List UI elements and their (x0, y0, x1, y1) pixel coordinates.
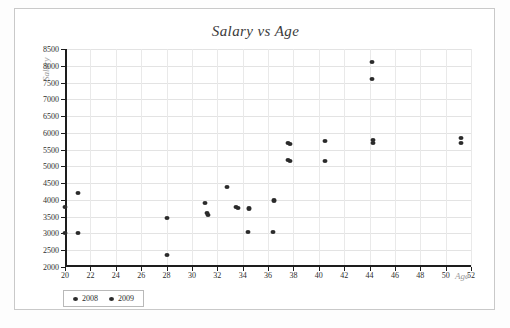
data-point (287, 142, 292, 146)
data-point (164, 216, 169, 220)
gridline-vertical (90, 49, 91, 267)
y-tick-label: 7500 (43, 78, 59, 87)
y-tick-mark (61, 200, 65, 201)
chart-legend: 20082009 (63, 290, 144, 307)
screenshot-root: Salary vs Age Salary Age 200025003000350… (0, 0, 510, 328)
y-tick-mark (61, 133, 65, 134)
chart-container: Salary vs Age Salary Age 200025003000350… (14, 8, 495, 310)
data-point (371, 141, 376, 145)
y-tick-label: 5000 (43, 162, 59, 171)
data-point (75, 231, 80, 235)
gridline-vertical (319, 49, 320, 267)
y-tick-mark (61, 217, 65, 218)
x-tick-label: 38 (289, 271, 297, 280)
legend-marker-icon (109, 297, 114, 301)
gridline-vertical (471, 49, 472, 267)
data-point (323, 159, 328, 163)
data-point (370, 77, 375, 81)
legend-entry-2009[interactable]: 2009 (109, 294, 134, 303)
gridline-vertical (192, 49, 193, 267)
gridline-vertical (395, 49, 396, 267)
data-point (75, 191, 80, 195)
x-tick-label: 34 (239, 271, 247, 280)
y-tick-label: 2000 (43, 263, 59, 272)
gridline-vertical (243, 49, 244, 267)
data-point (458, 141, 463, 145)
data-point (370, 60, 375, 64)
plot-area: 2000250030003500400045005000550060006500… (65, 49, 471, 267)
y-tick-mark (61, 66, 65, 67)
gridline-vertical (370, 49, 371, 267)
y-tick-label: 3000 (43, 229, 59, 238)
y-tick-mark (61, 49, 65, 50)
data-point (458, 136, 463, 140)
chart-title: Salary vs Age (15, 23, 496, 40)
x-tick-label: 48 (416, 271, 424, 280)
data-point (272, 199, 277, 203)
y-tick-mark (61, 116, 65, 117)
legend-marker-icon (73, 297, 78, 301)
gridline-vertical (116, 49, 117, 267)
legend-entry-2008[interactable]: 2008 (73, 294, 98, 303)
x-tick-label: 28 (163, 271, 171, 280)
x-tick-label: 50 (442, 271, 450, 280)
x-tick-label: 26 (137, 271, 145, 280)
x-tick-label: 32 (213, 271, 221, 280)
data-point (206, 213, 211, 217)
data-point (235, 206, 240, 210)
data-point (245, 230, 250, 234)
data-point (271, 230, 276, 234)
x-tick-label: 52 (467, 271, 475, 280)
x-tick-label: 20 (61, 271, 69, 280)
y-tick-label: 3500 (43, 212, 59, 221)
y-tick-mark (61, 250, 65, 251)
data-point (164, 253, 169, 257)
legend-label: 2008 (82, 294, 98, 303)
y-tick-label: 2500 (43, 246, 59, 255)
gridline-vertical (344, 49, 345, 267)
x-tick-label: 30 (188, 271, 196, 280)
data-point (287, 159, 292, 163)
y-tick-mark (61, 183, 65, 184)
y-tick-label: 6500 (43, 112, 59, 121)
data-point (202, 201, 207, 205)
x-tick-label: 42 (340, 271, 348, 280)
legend-label: 2009 (118, 294, 134, 303)
x-tick-label: 36 (264, 271, 272, 280)
data-point (246, 207, 251, 211)
gridline-vertical (167, 49, 168, 267)
x-tick-label: 46 (391, 271, 399, 280)
y-tick-label: 4000 (43, 195, 59, 204)
gridline-vertical (141, 49, 142, 267)
data-point (63, 205, 68, 209)
x-tick-label: 22 (86, 271, 94, 280)
x-tick-label: 40 (315, 271, 323, 280)
gridline-vertical (446, 49, 447, 267)
y-tick-mark (61, 150, 65, 151)
gridline-vertical (293, 49, 294, 267)
y-tick-label: 8000 (43, 61, 59, 70)
y-tick-mark (61, 99, 65, 100)
data-point (225, 185, 230, 189)
data-point (323, 139, 328, 143)
y-tick-mark (61, 166, 65, 167)
y-tick-mark (61, 83, 65, 84)
y-tick-label: 6000 (43, 128, 59, 137)
y-tick-label: 7000 (43, 95, 59, 104)
y-tick-label: 8500 (43, 45, 59, 54)
gridline-vertical (420, 49, 421, 267)
y-tick-label: 4500 (43, 179, 59, 188)
x-tick-label: 24 (112, 271, 120, 280)
x-tick-label: 44 (366, 271, 374, 280)
data-point (63, 231, 68, 235)
gridline-vertical (268, 49, 269, 267)
y-tick-label: 5500 (43, 145, 59, 154)
gridline-vertical (217, 49, 218, 267)
